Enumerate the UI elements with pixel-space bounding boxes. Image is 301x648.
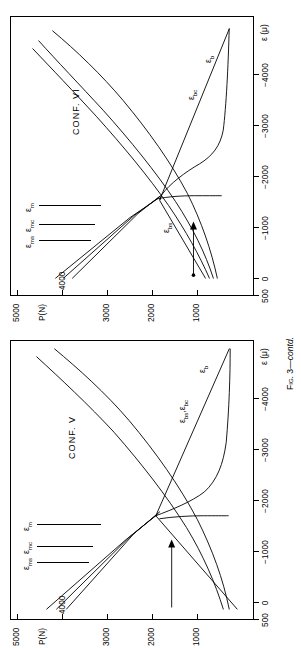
curve-eps-bs [33, 49, 210, 278]
xtick-label-500: 500 [260, 289, 270, 303]
xtick-mark-500 [254, 295, 259, 296]
ytick-label-4000: 4000 [57, 272, 67, 290]
ytick-label-3000: 3000 [101, 304, 111, 322]
xtick-mark-0 [254, 602, 259, 603]
plot-panel-conf-vi: 4000 εms εmc εm εbs ε [0, 0, 301, 324]
ytick-label-5000: 5000 [11, 304, 21, 322]
xtick-mark--2000 [254, 500, 259, 501]
ytick-label-3000: 3000 [101, 628, 111, 646]
leader-eps-m [37, 524, 101, 525]
xtick-label-500: 500 [260, 613, 270, 627]
curve-canvas-conf-v [11, 341, 253, 619]
y-axis-title: P(N) [37, 628, 47, 645]
curve-lower-left [156, 516, 237, 609]
label-eps-bs-bc: εbs,εbc [177, 400, 187, 423]
figure-root: 4000 εms εmc εm εbs ε [0, 0, 301, 648]
branch-eps-m [67, 512, 160, 609]
leader-eps-m [39, 205, 101, 206]
ytick-5000 [17, 290, 18, 295]
ytick-1000 [197, 614, 198, 619]
leader-eps-ms [39, 240, 91, 241]
ytick-label-4000: 4000 [57, 596, 67, 614]
ytick-2000 [152, 290, 153, 295]
curve-eps-bc [39, 41, 214, 278]
arrow-marker-icon [168, 540, 175, 548]
xtick-mark--2000 [254, 176, 259, 177]
xtick-label--2000: −2000 [260, 165, 270, 189]
label-eps-mc: εmc [21, 542, 31, 554]
ytick-label-2000: 2000 [146, 628, 156, 646]
ytick-label-5000: 5000 [11, 628, 21, 646]
label-eps-m: εm [23, 203, 33, 212]
plot-area-conf-v: 4000 εms εmc εm εbs,εbc εb [11, 341, 253, 619]
label-eps-m: εm [21, 522, 31, 531]
leader-eps-mc [37, 546, 93, 547]
label-eps-bs: εbs [161, 223, 171, 233]
xtick-label--2000: −2000 [260, 489, 270, 513]
label-eps-b: εb [203, 56, 213, 63]
leader-eps-ms [37, 562, 89, 563]
curve-drop [160, 516, 228, 519]
xtick-mark--4000 [254, 398, 259, 399]
ytick-5000 [17, 614, 18, 619]
curve-baseline-straight [160, 29, 229, 200]
branch-eps-ms [56, 199, 158, 278]
xtick-mark--1000 [254, 227, 259, 228]
curve-baseline-straight [156, 349, 229, 516]
xtick-label--3000: −3000 [260, 438, 270, 462]
label-eps-b: εb [197, 366, 207, 373]
plot-panel-conf-v: 4000 εms εmc εm εbs,εbc εb [0, 324, 301, 648]
y-axis-title: P(N) [37, 304, 47, 321]
point-marker [192, 273, 196, 277]
label-eps-ms: εms [21, 558, 31, 570]
label-eps-bc: εbc [186, 90, 196, 100]
plot-area-conf-vi: 4000 εms εmc εm εbs ε [11, 17, 253, 295]
curve-eps-bs-bc [37, 357, 223, 609]
xtick-label--3000: −3000 [260, 114, 270, 138]
arrow-marker-icon [190, 222, 197, 230]
xtick-label-0: 0 [260, 601, 270, 606]
xtick-mark-500 [254, 619, 259, 620]
figure-caption-prefix: Fig. 3 [285, 369, 295, 390]
ytick-3000 [107, 614, 108, 619]
ytick-label-2000: 2000 [146, 304, 156, 322]
xtick-mark--3000 [254, 125, 259, 126]
branch-eps-m [72, 195, 161, 278]
xtick-label-0: 0 [260, 277, 270, 282]
ytick-label-1000: 1000 [191, 628, 201, 646]
ytick-label-1000: 1000 [191, 304, 201, 322]
curve-canvas-conf-vi [11, 17, 253, 295]
figure-caption-suffix: —contd. [285, 337, 295, 369]
xtick-mark-0 [254, 278, 259, 279]
x-axis-title: ε (μ) [259, 348, 269, 365]
ytick-3000 [107, 290, 108, 295]
label-eps-mc: εmc [23, 220, 33, 232]
ytick-2000 [152, 614, 153, 619]
xtick-mark--3000 [254, 449, 259, 450]
x-axis-title: ε (μ) [259, 24, 269, 41]
panel-title-conf-v: CONF. V [67, 416, 77, 459]
leader-eps-mc [39, 224, 95, 225]
label-eps-ms: εms [23, 236, 33, 248]
ytick-4000 [62, 290, 63, 295]
branch-eps-mc [64, 197, 160, 278]
xtick-label--1000: −1000 [260, 216, 270, 240]
curve-peak-tail [160, 29, 229, 278]
xtick-mark--4000 [254, 74, 259, 75]
ytick-1000 [197, 290, 198, 295]
plot-frame-conf-v: 4000 εms εmc εm εbs,εbc εb [10, 340, 254, 620]
xtick-label--4000: −4000 [260, 387, 270, 411]
figure-caption: Fig. 3—contd. [285, 337, 295, 390]
plot-frame-conf-vi: 4000 εms εmc εm εbs ε [10, 16, 254, 296]
xtick-label--4000: −4000 [260, 63, 270, 87]
panel-title-conf-vi: CONF. VI [71, 88, 81, 135]
curve-eps-b [53, 31, 218, 278]
xtick-label--1000: −1000 [260, 540, 270, 564]
ytick-4000 [62, 614, 63, 619]
xtick-mark--1000 [254, 551, 259, 552]
